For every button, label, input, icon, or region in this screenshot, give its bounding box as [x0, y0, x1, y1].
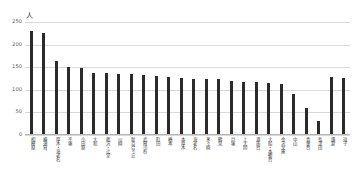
x-label-slot: 長津田	[313, 137, 326, 182]
x-label-slot: 小田原	[75, 137, 88, 182]
bar-slot	[25, 22, 38, 135]
bar-slot	[313, 22, 326, 135]
x-axis-labels: 相模原横須賀厚木・海老名平塚小田原大和藤沢・辻堂川崎新百合ヶ丘武蔵小杉町田橋本本…	[25, 137, 350, 182]
x-axis-tick-label: 藤沢・辻堂	[104, 137, 109, 182]
x-axis-tick-label: 茅ヶ崎	[204, 137, 209, 182]
x-axis-tick-label: 川崎	[116, 137, 121, 182]
x-label-slot: 橋本	[163, 137, 176, 182]
x-label-slot: 大和	[88, 137, 101, 182]
bar	[92, 73, 95, 135]
x-label-slot: 横須賀	[38, 137, 51, 182]
bar	[205, 79, 208, 136]
bar-slot	[263, 22, 276, 135]
bar	[317, 121, 320, 135]
bar	[67, 67, 70, 135]
plot-area	[25, 22, 350, 135]
x-axis-tick-label: 金沢文庫	[279, 137, 284, 182]
y-axis-tick-label: 150	[12, 65, 22, 70]
y-axis-unit-label: 人	[26, 13, 33, 20]
bar	[280, 84, 283, 135]
bar	[292, 94, 295, 135]
bar-slot	[113, 22, 126, 135]
x-label-slot: 武蔵小杉	[138, 137, 151, 182]
bar-slot	[163, 22, 176, 135]
x-label-slot: 新百合ヶ丘	[125, 137, 138, 182]
bar-slot	[50, 22, 63, 135]
x-axis-tick-label: 上大岡	[241, 137, 246, 182]
x-label-slot: 藤沢・辻堂	[100, 137, 113, 182]
x-axis-baseline	[25, 134, 350, 135]
x-label-slot: 大船・本郷台	[263, 137, 276, 182]
x-label-slot: 相模原	[25, 137, 38, 182]
bar-slot	[300, 22, 313, 135]
y-axis-tick-label: 100	[12, 87, 22, 92]
bar-slot	[63, 22, 76, 135]
bar-slot	[288, 22, 301, 135]
x-axis-tick-label: 町田	[154, 137, 159, 182]
x-axis-tick-label: 相模原	[29, 137, 34, 182]
x-label-slot: 茅ヶ崎	[200, 137, 213, 182]
bar-slot	[150, 22, 163, 135]
x-label-slot: 港南台	[250, 137, 263, 182]
bar	[130, 74, 133, 135]
x-axis-tick-label: 本厚木	[179, 137, 184, 182]
bar	[255, 82, 258, 135]
bar	[80, 68, 83, 135]
bar-slot	[238, 22, 251, 135]
x-axis-tick-label: 青葉台	[304, 137, 309, 182]
x-label-slot: 戸塚	[225, 137, 238, 182]
bar-slot	[225, 22, 238, 135]
bar-slot	[213, 22, 226, 135]
x-axis-tick-label: 鶴見	[216, 137, 221, 182]
x-axis-tick-label: 港南台	[254, 137, 259, 182]
x-axis-tick-label: 大和	[91, 137, 96, 182]
bar	[342, 78, 345, 135]
bar-slot	[125, 22, 138, 135]
x-axis-tick-label: 戸塚	[229, 137, 234, 182]
x-axis-tick-label: 長津田	[316, 137, 321, 182]
x-axis-tick-label: 中山	[291, 137, 296, 182]
x-axis-tick-label: 横須賀	[41, 137, 46, 182]
x-axis-tick-label: 橋本	[166, 137, 171, 182]
bar	[42, 33, 45, 135]
x-label-slot: 平塚	[63, 137, 76, 182]
x-label-slot: 海老名	[188, 137, 201, 182]
x-axis-tick-label: 逗子	[341, 137, 346, 182]
x-label-slot: 金沢文庫	[275, 137, 288, 182]
bar-series	[25, 22, 350, 135]
x-label-slot: 上大岡	[238, 137, 251, 182]
bar	[192, 79, 195, 136]
x-label-slot: 本厚木	[175, 137, 188, 182]
x-axis-tick-label: 厚木・海老名	[54, 137, 59, 182]
x-axis-tick-label: 新百合ヶ丘	[129, 137, 134, 182]
bar	[230, 81, 233, 135]
bar	[55, 61, 58, 135]
bar	[242, 82, 245, 135]
x-axis-tick-label: 武蔵小杉	[141, 137, 146, 182]
bar	[180, 78, 183, 135]
bar-slot	[188, 22, 201, 135]
bar-slot	[75, 22, 88, 135]
bar-slot	[88, 22, 101, 135]
bar-slot	[200, 22, 213, 135]
bar	[117, 74, 120, 135]
x-label-slot: 鎌倉	[325, 137, 338, 182]
bar-slot	[325, 22, 338, 135]
bar-slot	[250, 22, 263, 135]
x-label-slot: 厚木・海老名	[50, 137, 63, 182]
y-axis: 050100150200250	[0, 16, 25, 141]
x-axis-tick-label: 小田原	[79, 137, 84, 182]
y-axis-tick-label: 50	[15, 110, 22, 115]
x-label-slot: 中山	[288, 137, 301, 182]
y-axis-tick-label: 200	[12, 42, 22, 47]
bar	[330, 77, 333, 135]
x-axis-tick-label: 大船・本郷台	[266, 137, 271, 182]
bar-chart: 人 050100150200250 相模原横須賀厚木・海老名平塚小田原大和藤沢・…	[0, 0, 354, 182]
x-axis-tick-label: 鎌倉	[329, 137, 334, 182]
bar	[155, 76, 158, 135]
bar	[105, 73, 108, 135]
bar-slot	[175, 22, 188, 135]
bar-slot	[100, 22, 113, 135]
x-label-slot: 青葉台	[300, 137, 313, 182]
bar-slot	[138, 22, 151, 135]
